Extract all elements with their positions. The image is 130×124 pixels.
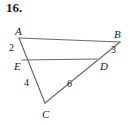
vertex-label-C: C xyxy=(42,109,49,120)
angle-label-6: 6 xyxy=(67,79,72,89)
vertex-label-B: B xyxy=(114,29,121,40)
angle-label-2: 2 xyxy=(9,43,14,53)
segment-AB xyxy=(19,38,120,42)
segment-AC xyxy=(19,38,45,103)
vertex-label-A: A xyxy=(15,26,22,37)
segment-BC xyxy=(45,42,120,103)
angle-label-3: 3 xyxy=(111,45,116,55)
vertex-label-D: D xyxy=(100,61,108,72)
angle-label-4: 4 xyxy=(24,78,29,88)
segment-ED xyxy=(22,59,97,60)
vertex-label-E: E xyxy=(14,61,21,72)
geometry-problem-figure: 16. A B E D C 2 3 4 6 xyxy=(0,0,130,124)
